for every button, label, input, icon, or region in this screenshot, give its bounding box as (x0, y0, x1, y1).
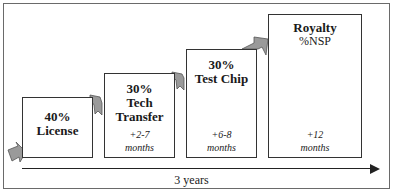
step-title-line2: Transfer (105, 110, 174, 124)
step-license: 40% License (22, 97, 93, 158)
timeline-label: 3 years (0, 173, 395, 187)
step-title: Royalty (269, 21, 361, 35)
step-duration: +2-7 months (105, 128, 174, 154)
step-title: License (23, 124, 92, 138)
step-percent: 40% (23, 110, 92, 124)
step-test-chip: 30% Test Chip +6-8 months (186, 49, 257, 158)
step-title-line1: Tech (105, 96, 174, 110)
timeline-axis (22, 168, 372, 169)
step-percent: 30% (187, 58, 256, 72)
duration-unit: months (105, 141, 174, 154)
duration-value: +2-7 (105, 128, 174, 141)
step-title: Test Chip (187, 72, 256, 86)
timeline-label-text: 3 years (174, 173, 208, 187)
step-subtitle: %NSP (269, 35, 361, 48)
step-tech-transfer: 30% Tech Transfer +2-7 months (104, 73, 175, 158)
duration-unit: months (187, 141, 256, 154)
step-royalty: Royalty %NSP +12 months (268, 14, 362, 158)
duration-value: +6-8 (187, 128, 256, 141)
step-duration: +6-8 months (187, 128, 256, 154)
step-duration: +12 months (269, 128, 361, 154)
step-percent: 30% (105, 82, 174, 96)
duration-unit: months (269, 141, 361, 154)
duration-value: +12 (269, 128, 361, 141)
